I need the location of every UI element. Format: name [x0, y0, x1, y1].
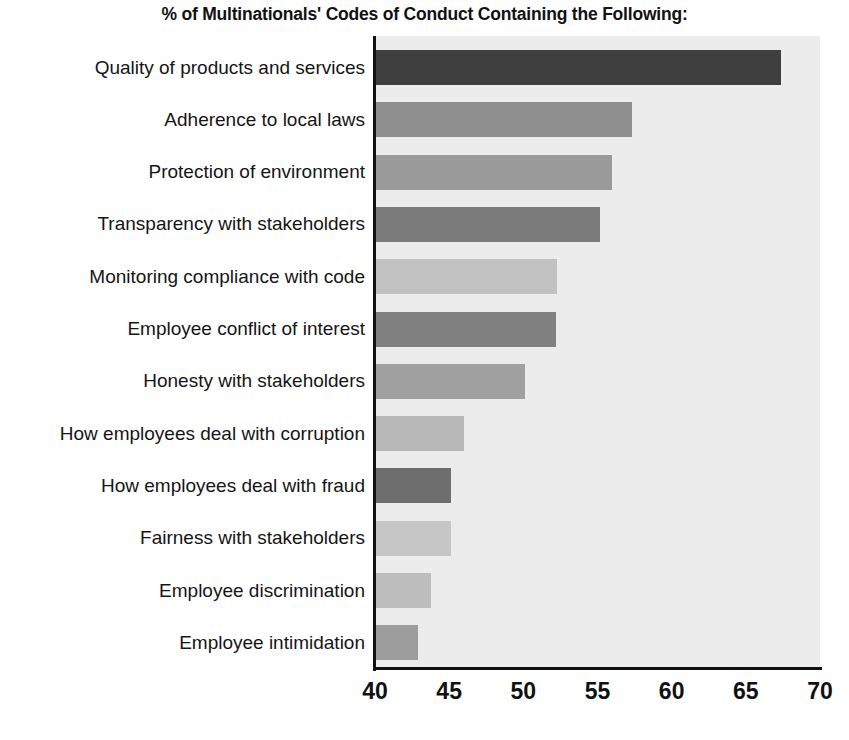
category-label: Monitoring compliance with code: [0, 265, 365, 289]
bar: [375, 416, 464, 451]
x-tick-label: 50: [493, 678, 553, 705]
category-label: Employee discrimination: [0, 579, 365, 603]
x-tick-label: 70: [790, 678, 849, 705]
bar: [375, 312, 556, 347]
x-tick-label: 55: [568, 678, 628, 705]
bar: [375, 155, 612, 190]
category-label: Fairness with stakeholders: [0, 526, 365, 550]
chart-title: % of Multinationals' Codes of Conduct Co…: [0, 4, 849, 25]
bar: [375, 625, 418, 660]
category-label: Adherence to local laws: [0, 108, 365, 132]
bar: [375, 521, 451, 556]
y-axis-line: [373, 36, 376, 671]
category-label: Employee conflict of interest: [0, 317, 365, 341]
category-label: How employees deal with fraud: [0, 474, 365, 498]
category-label: Transparency with stakeholders: [0, 212, 365, 236]
bar: [375, 259, 557, 294]
bar: [375, 50, 781, 85]
plot-area: [375, 36, 820, 669]
x-tick-label: 40: [345, 678, 405, 705]
bar: [375, 207, 600, 242]
x-tick-label: 65: [716, 678, 776, 705]
bar-chart: % of Multinationals' Codes of Conduct Co…: [0, 0, 849, 740]
x-tick-label: 60: [642, 678, 702, 705]
category-label: Protection of environment: [0, 160, 365, 184]
x-tick-label: 45: [419, 678, 479, 705]
bar: [375, 468, 451, 503]
x-axis-line: [373, 667, 822, 670]
category-label: Honesty with stakeholders: [0, 369, 365, 393]
category-label: How employees deal with corruption: [0, 422, 365, 446]
bar: [375, 102, 632, 137]
bar: [375, 364, 525, 399]
category-label: Quality of products and services: [0, 56, 365, 80]
bar: [375, 573, 431, 608]
category-label: Employee intimidation: [0, 631, 365, 655]
